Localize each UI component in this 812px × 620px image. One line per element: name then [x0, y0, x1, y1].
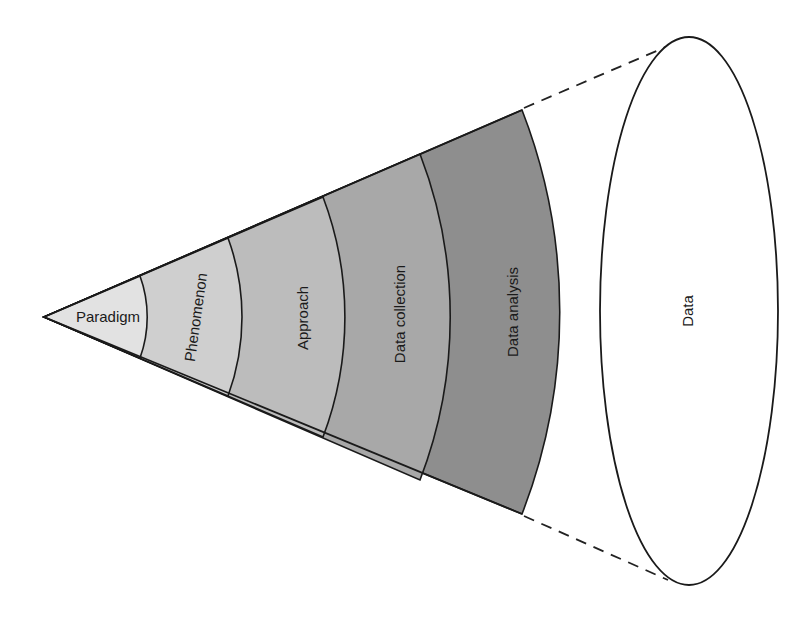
label-data-analysis: Data analysis: [504, 267, 521, 357]
label-approach: Approach: [294, 286, 311, 350]
label-paradigm: Paradigm: [76, 308, 140, 325]
label-data-collection: Data collection: [391, 265, 408, 363]
research-onion-cone-diagram: Paradigm Phenomenon Approach Data collec…: [0, 0, 812, 620]
label-data: Data: [679, 295, 696, 327]
